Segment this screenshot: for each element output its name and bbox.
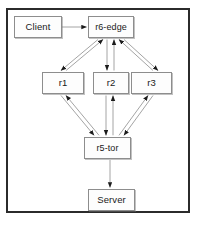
node-r2-label: r2 bbox=[107, 78, 116, 88]
node-r3[interactable]: r3 bbox=[131, 72, 172, 94]
node-r1-label: r1 bbox=[59, 78, 68, 88]
node-client-label: Client bbox=[26, 22, 51, 32]
node-r1[interactable]: r1 bbox=[42, 72, 84, 94]
node-server-label: Server bbox=[97, 195, 126, 205]
node-server[interactable]: Server bbox=[88, 189, 135, 211]
node-client[interactable]: Client bbox=[14, 16, 62, 38]
node-r5-tor-label: r5-tor bbox=[96, 144, 118, 153]
node-r3-label: r3 bbox=[147, 78, 156, 88]
node-r2[interactable]: r2 bbox=[93, 72, 129, 94]
node-r6-edge-label: r6-edge bbox=[95, 23, 127, 32]
node-r6-edge[interactable]: r6-edge bbox=[88, 16, 134, 38]
diagram-border bbox=[6, 8, 190, 213]
network-diagram: Client r6-edge r1 r2 r3 r5-tor Server bbox=[0, 0, 200, 226]
node-r5-tor[interactable]: r5-tor bbox=[84, 137, 131, 159]
